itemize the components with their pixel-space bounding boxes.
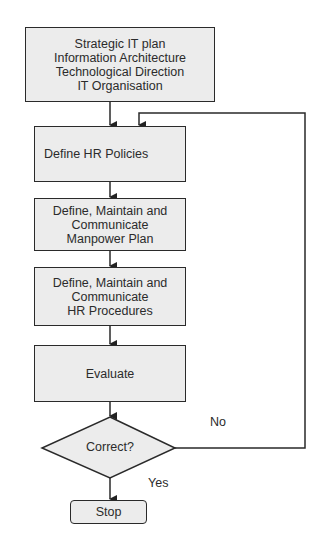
decision-label: Correct? (60, 440, 160, 454)
node-text: Strategic IT plan Information Architectu… (54, 37, 186, 93)
node-text: Define HR Policies (44, 147, 148, 161)
node-text: Define, Maintain and Communicate HR Proc… (53, 276, 168, 318)
node-text: Evaluate (86, 367, 135, 381)
node-manpower-plan: Define, Maintain and Communicate Manpowe… (34, 198, 186, 251)
no-label: No (210, 415, 226, 429)
node-text: Define, Maintain and Communicate Manpowe… (53, 204, 168, 246)
flowchart: Strategic IT plan Information Architectu… (0, 0, 318, 546)
node-evaluate: Evaluate (34, 345, 186, 402)
yes-label: Yes (148, 476, 168, 490)
node-text: Stop (96, 505, 122, 519)
node-define-hr-policies: Define HR Policies (34, 126, 186, 182)
node-hr-procedures: Define, Maintain and Communicate HR Proc… (34, 267, 186, 326)
node-strategic-it-plan: Strategic IT plan Information Architectu… (25, 27, 215, 102)
node-stop: Stop (70, 500, 147, 524)
